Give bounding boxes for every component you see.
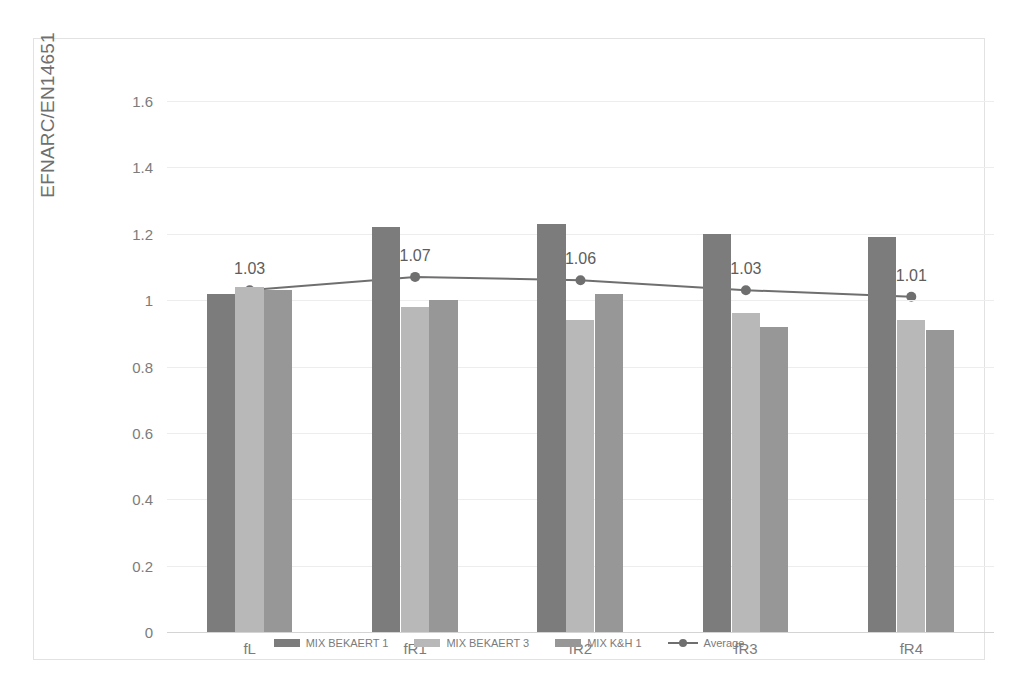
legend-item-label: MIX K&H 1 (587, 637, 641, 649)
bar (401, 307, 429, 632)
bar (760, 327, 788, 632)
bar (429, 300, 457, 632)
gridline (167, 234, 994, 235)
chart-frame: 00.20.40.60.811.21.41.6fLfR1fR2fR3fR41.0… (33, 38, 985, 660)
legend-swatch-icon (414, 639, 440, 647)
plot-area: 00.20.40.60.811.21.41.6fLfR1fR2fR3fR41.0… (167, 101, 994, 632)
y-axis-tick-label: 0.6 (83, 424, 153, 441)
y-axis-tick-label: 1.6 (83, 93, 153, 110)
data-point-label: 1.03 (730, 260, 761, 278)
bar (537, 224, 565, 632)
bar (235, 287, 263, 632)
gridline (167, 101, 994, 102)
bar (732, 313, 760, 632)
bar (703, 234, 731, 632)
y-axis-tick-label: 1.4 (83, 159, 153, 176)
bar (868, 237, 896, 632)
gridline (167, 167, 994, 168)
data-point-label: 1.01 (896, 267, 927, 285)
y-axis-tick-label: 0.4 (83, 491, 153, 508)
legend-swatch-icon (274, 639, 300, 647)
bar (372, 227, 400, 632)
data-point-label: 1.03 (234, 260, 265, 278)
legend-item[interactable]: MIX K&H 1 (555, 637, 641, 649)
bar (566, 320, 594, 632)
gridline (167, 632, 994, 633)
chart-legend: MIX BEKAERT 1MIX BEKAERT 3MIX K&H 1Avera… (34, 637, 984, 649)
legend-line-marker-icon (668, 638, 698, 648)
legend-item-label: Average (704, 637, 745, 649)
legend-item-label: MIX BEKAERT 1 (306, 637, 389, 649)
y-axis-tick-label: 0.8 (83, 358, 153, 375)
data-point-label: 1.07 (400, 247, 431, 265)
bar (897, 320, 925, 632)
y-axis-tick-label: 0.2 (83, 557, 153, 574)
legend-swatch-icon (555, 639, 581, 647)
y-axis-tick-label: 1.2 (83, 225, 153, 242)
legend-item[interactable]: MIX BEKAERT 3 (414, 637, 529, 649)
bar (207, 294, 235, 633)
legend-item[interactable]: MIX BEKAERT 1 (274, 637, 389, 649)
data-point-label: 1.06 (565, 250, 596, 268)
y-axis-title: EFNARC/EN14651 (33, 0, 63, 245)
legend-item-label: MIX BEKAERT 3 (446, 637, 529, 649)
bar (926, 330, 954, 632)
bar (264, 290, 292, 632)
legend-item[interactable]: Average (668, 637, 745, 649)
y-axis-tick-label: 1 (83, 292, 153, 309)
bar (595, 294, 623, 633)
